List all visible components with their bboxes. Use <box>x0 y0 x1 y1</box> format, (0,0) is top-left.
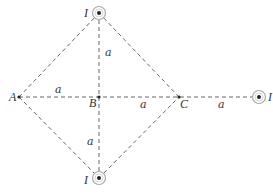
distance-label-C-right: a <box>218 98 225 111</box>
current-dot-icon <box>257 95 261 99</box>
wire-bottom <box>93 172 106 185</box>
point-B-label: B <box>89 96 97 110</box>
wire-right <box>253 91 266 104</box>
wire-top <box>93 7 106 20</box>
wire-bottom-label: I <box>83 173 89 187</box>
diagram-canvas: A B C I I I a a a a a <box>0 0 273 195</box>
distance-label-top: a <box>105 46 112 59</box>
wire-right-label: I <box>267 90 273 104</box>
current-dot-icon <box>97 176 101 180</box>
wire-top-label: I <box>83 6 89 20</box>
point-C-label: C <box>180 97 189 111</box>
distance-label-bottom: a <box>87 135 94 148</box>
distance-label-BC: a <box>140 98 147 111</box>
line-bottom-C <box>99 97 179 178</box>
point-A-dot <box>17 95 20 98</box>
current-dot-icon <box>97 11 101 15</box>
point-A-label: A <box>8 90 17 104</box>
distance-label-AB: a <box>55 83 62 96</box>
point-B-dot <box>97 95 100 98</box>
